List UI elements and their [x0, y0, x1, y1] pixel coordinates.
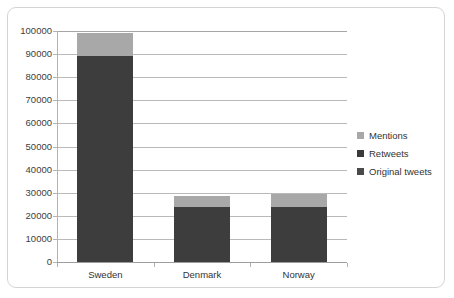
bar-group[interactable]	[77, 31, 133, 262]
legend-swatch-mentions	[357, 132, 364, 139]
legend-label-retweets: Retweets	[369, 148, 409, 159]
y-axis-tick	[53, 123, 57, 124]
bar-segment[interactable]	[77, 33, 133, 56]
y-axis-tick	[53, 31, 57, 32]
x-axis-tick	[154, 263, 155, 267]
y-axis-tick-label: 10000	[2, 234, 52, 244]
y-axis-tick	[53, 147, 57, 148]
bar-group[interactable]	[174, 31, 230, 262]
x-axis-tick	[57, 263, 58, 267]
y-axis-tick-label: 20000	[2, 211, 52, 221]
plot-area	[57, 31, 347, 262]
y-axis-line	[57, 31, 58, 263]
y-axis-tick-label: 30000	[2, 188, 52, 198]
legend-item-original-tweets[interactable]: Original tweets	[357, 162, 449, 180]
x-axis-line	[57, 262, 347, 263]
y-axis-tick	[53, 100, 57, 101]
y-axis-tick-label: 70000	[2, 95, 52, 105]
bar-segment[interactable]	[174, 196, 230, 206]
y-axis-tick-label: 100000	[2, 26, 52, 36]
legend-item-retweets[interactable]: Retweets	[357, 144, 449, 162]
x-axis-category-label: Norway	[254, 269, 344, 280]
y-axis-tick	[53, 239, 57, 240]
bar-segment[interactable]	[271, 207, 327, 262]
y-axis-tick-label: 90000	[2, 49, 52, 59]
y-axis-tick	[53, 170, 57, 171]
x-axis-tick	[347, 263, 348, 267]
y-axis-tick-label: 40000	[2, 165, 52, 175]
bar-segment[interactable]	[174, 207, 230, 262]
y-axis-tick	[53, 54, 57, 55]
legend-swatch-original-tweets	[357, 168, 364, 175]
bar-segment[interactable]	[271, 194, 327, 207]
chart-screenshot: 0100002000030000400005000060000700008000…	[0, 0, 454, 298]
legend-label-original-tweets: Original tweets	[369, 166, 432, 177]
y-axis-tick	[53, 77, 57, 78]
legend-label-mentions: Mentions	[369, 130, 408, 141]
y-axis-labels: 0100002000030000400005000060000700008000…	[0, 0, 52, 298]
y-axis-tick-label: 0	[2, 257, 52, 267]
x-axis-category-label: Sweden	[60, 269, 150, 280]
y-axis-tick	[53, 193, 57, 194]
y-axis-tick-label: 50000	[2, 142, 52, 152]
x-axis-tick	[250, 263, 251, 267]
legend-item-mentions[interactable]: Mentions	[357, 126, 449, 144]
chart-legend: Mentions Retweets Original tweets	[357, 126, 449, 180]
x-axis-category-label: Denmark	[157, 269, 247, 280]
y-axis-tick-label: 80000	[2, 72, 52, 82]
legend-swatch-retweets	[357, 150, 364, 157]
y-axis-tick-label: 60000	[2, 118, 52, 128]
bar-group[interactable]	[271, 31, 327, 262]
bar-segment[interactable]	[77, 56, 133, 262]
y-axis-tick	[53, 262, 57, 263]
y-axis-tick	[53, 216, 57, 217]
